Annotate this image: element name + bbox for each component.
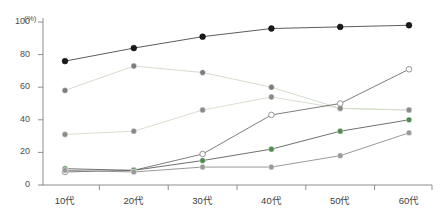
data-point xyxy=(131,128,137,134)
data-point xyxy=(62,88,68,94)
data-point xyxy=(337,128,343,134)
y-tick-label: 0 xyxy=(2,179,30,189)
data-point xyxy=(337,24,343,30)
y-tick-label: 80 xyxy=(2,49,30,59)
data-point xyxy=(269,164,275,170)
data-point xyxy=(200,107,206,113)
x-tick-label: 20代 xyxy=(112,193,156,207)
data-point xyxy=(269,94,275,100)
series-series-6 xyxy=(62,130,412,175)
data-point xyxy=(131,63,137,69)
data-point xyxy=(406,130,412,136)
data-point xyxy=(406,66,412,72)
x-tick-label: 10代 xyxy=(43,193,87,207)
data-point xyxy=(131,169,137,175)
data-point xyxy=(269,112,275,118)
x-tick-label: 50代 xyxy=(318,193,362,207)
data-point xyxy=(269,26,275,32)
data-point xyxy=(269,84,275,90)
data-point xyxy=(406,22,412,28)
data-point xyxy=(200,158,206,164)
data-point xyxy=(200,164,206,170)
data-point xyxy=(200,34,206,40)
data-point xyxy=(131,45,137,51)
data-point xyxy=(200,70,206,76)
y-tick-label: 20 xyxy=(2,146,30,156)
series-series-4 xyxy=(62,66,412,174)
series-series-1 xyxy=(62,22,412,64)
data-point xyxy=(337,101,343,107)
data-point xyxy=(62,167,68,173)
series-series-5 xyxy=(62,117,412,173)
line-chart: (%) 100806040200 10代20代30代40代50代60代 xyxy=(0,0,443,214)
series-layer xyxy=(62,22,412,175)
y-tick-label: 60 xyxy=(2,81,30,91)
data-point xyxy=(62,58,68,64)
x-tick-label: 60代 xyxy=(387,193,431,207)
y-tick-label: 40 xyxy=(2,114,30,124)
chart-canvas xyxy=(0,0,443,214)
data-point xyxy=(337,153,343,159)
x-tick-label: 40代 xyxy=(249,193,293,207)
y-tick-label: 100 xyxy=(2,16,30,26)
series-series-3 xyxy=(62,94,412,137)
data-point xyxy=(269,146,275,152)
data-point xyxy=(62,132,68,138)
series-series-2 xyxy=(62,63,412,113)
data-point xyxy=(406,107,412,113)
x-tick-label: 30代 xyxy=(181,193,225,207)
data-point xyxy=(406,117,412,123)
data-point xyxy=(200,151,206,157)
